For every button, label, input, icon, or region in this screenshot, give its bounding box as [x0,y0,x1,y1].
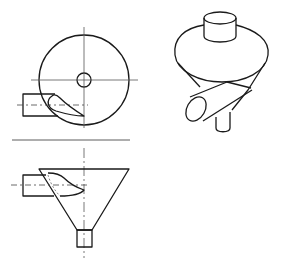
dome-outline [175,25,268,82]
cone-left-edge [178,63,200,87]
front-view [11,148,129,258]
inlet-pipe-end [182,93,211,125]
cyclone-drawing [0,0,282,262]
cone-right-edge [232,63,265,110]
top-view [17,27,138,128]
inlet-pipe-bottom [203,90,252,121]
top-cylinder-top [204,12,236,24]
top-cylinder-bottom [204,36,236,42]
bottom-outlet [77,230,92,247]
iso-bottom-outlet [216,112,230,132]
inlet-pipe-top [190,82,251,97]
isometric-view [175,12,268,132]
